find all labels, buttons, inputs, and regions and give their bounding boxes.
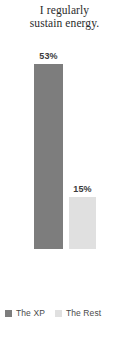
bar-value-label-the-rest: 15%	[73, 184, 92, 194]
bar-the-rest[interactable]	[69, 197, 96, 249]
bar-value-label-the-xp: 53%	[39, 51, 58, 61]
legend-item-the-rest[interactable]: The Rest	[55, 308, 101, 318]
legend-swatch-icon-the-xp	[5, 310, 12, 317]
legend-label-the-rest: The Rest	[66, 308, 101, 318]
chart-legend: The XP The Rest	[0, 308, 129, 328]
chart-title-line-2: sustain energy.	[30, 17, 100, 29]
chart-title-line-1: I regularly	[40, 4, 89, 16]
legend-label-the-xp: The XP	[16, 308, 45, 318]
plot-area: 53% 15%	[0, 40, 129, 295]
bar-group-the-xp: 53%	[34, 64, 63, 249]
bar-chart-card: I regularly sustain energy. 53% 15% The …	[0, 0, 129, 337]
legend-swatch-icon-the-rest	[55, 310, 62, 317]
bar-group-the-rest: 15%	[69, 197, 96, 249]
chart-title: I regularly sustain energy.	[0, 4, 129, 30]
legend-item-the-xp[interactable]: The XP	[5, 308, 45, 318]
bar-the-xp[interactable]	[34, 64, 63, 249]
